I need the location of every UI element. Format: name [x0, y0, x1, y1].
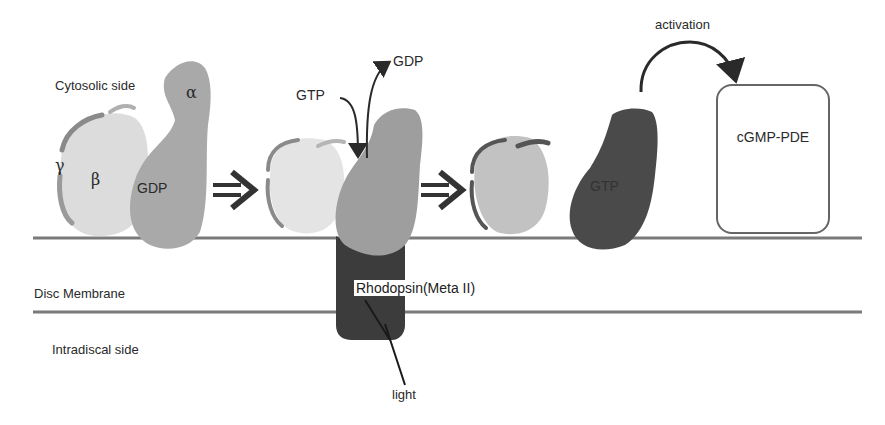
gtp-bound-label: GTP [590, 178, 619, 194]
gamma-label: γ [55, 156, 65, 175]
gtp-in-label: GTP [296, 87, 325, 103]
cytosolic-side-label: Cytosolic side [55, 78, 135, 93]
beta-label: β [91, 170, 100, 189]
activation-arrow [641, 42, 735, 92]
activation-label: activation [655, 17, 710, 32]
beta-gamma-free [472, 136, 549, 234]
beta-gamma-2 [270, 138, 344, 233]
rhodopsin-label: Rhodopsin(Meta II) [354, 280, 477, 296]
transition-arrow-2 [421, 172, 462, 208]
alpha-subunit-2 [336, 108, 423, 255]
light-label: light [392, 387, 416, 402]
cgmp-pde-label: cGMP-PDE [737, 129, 809, 145]
intradiscal-side-label: Intradiscal side [52, 342, 139, 357]
alpha-label: α [186, 83, 197, 102]
gtp-in-arrow [340, 98, 358, 155]
cgmp-pde-box: cGMP-PDE [716, 84, 830, 234]
transition-arrow-1 [213, 172, 254, 208]
gdp-out-label: GDP [393, 53, 423, 69]
gdp-bound-label: GDP [137, 180, 167, 196]
g-protein-exchange [268, 108, 423, 340]
g-protein-activation-diagram: Cytosolic side Disc Membrane Intradiscal… [0, 0, 885, 425]
disc-membrane-label: Disc Membrane [34, 286, 125, 301]
